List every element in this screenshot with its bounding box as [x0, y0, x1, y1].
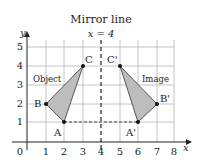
reflection-diagram: Mirror line x = 4 y x 0 1 2 3 4 5 6 7 8 …: [0, 0, 199, 167]
svg-text:3: 3: [80, 146, 86, 157]
svg-text:B: B: [34, 98, 41, 109]
svg-text:C: C: [85, 54, 93, 65]
svg-text:1: 1: [43, 146, 49, 157]
svg-text:B': B': [160, 93, 170, 104]
svg-text:4: 4: [17, 60, 23, 71]
svg-text:2: 2: [61, 146, 67, 157]
svg-text:8: 8: [171, 146, 177, 157]
svg-text:4: 4: [98, 146, 104, 157]
svg-text:2: 2: [17, 98, 23, 109]
title-line2: x = 4: [88, 28, 115, 39]
diagram-canvas: Mirror line x = 4 y x 0 1 2 3 4 5 6 7 8 …: [0, 0, 199, 167]
svg-text:1: 1: [17, 116, 23, 127]
svg-text:7: 7: [154, 146, 160, 157]
x-axis-label: x: [183, 142, 189, 153]
svg-text:5: 5: [117, 146, 123, 157]
svg-text:5: 5: [17, 41, 23, 52]
svg-text:A: A: [53, 127, 62, 138]
image-label: Image: [142, 74, 169, 84]
svg-text:A': A': [125, 127, 136, 138]
y-axis-label: y: [19, 27, 26, 38]
svg-text:6: 6: [135, 146, 141, 157]
svg-text:3: 3: [17, 79, 23, 90]
svg-text:C': C': [107, 54, 117, 65]
x-tick-labels: 0 1 2 3 4 5 6 7 8: [17, 146, 177, 157]
title-line1: Mirror line: [70, 13, 131, 26]
object-label: Object: [33, 74, 62, 84]
y-tick-labels: 1 2 3 4 5: [17, 41, 23, 127]
svg-text:0: 0: [17, 146, 23, 157]
